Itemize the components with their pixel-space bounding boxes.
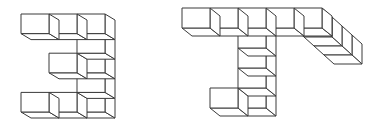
cube-front-face <box>182 8 210 28</box>
cube-front-face <box>21 14 49 34</box>
figure-right <box>182 8 362 116</box>
figure-left <box>21 14 115 118</box>
cube-front-face <box>210 88 238 108</box>
diagram-canvas <box>0 0 379 131</box>
cube-front-face <box>21 92 49 112</box>
cube-front-face <box>49 53 77 73</box>
